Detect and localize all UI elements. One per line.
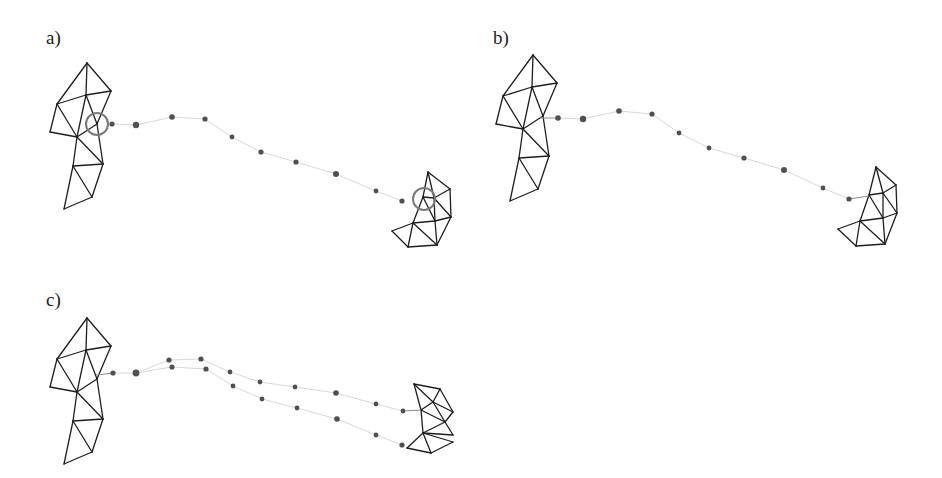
trajectory-point [133,122,139,128]
trajectory-point [781,167,787,173]
trajectory-point [399,198,404,203]
trajectory-point [374,433,379,438]
trajectory-point [133,370,140,377]
trajectory-point [649,111,654,116]
trajectory-point [295,406,300,411]
trajectory-point [228,370,233,375]
attachment-segment [403,410,421,411]
trajectory-point [333,390,339,396]
trajectory-path [113,359,403,445]
trajectory-point [260,397,265,402]
trajectory-path [112,117,402,201]
trajectory-point [293,385,298,390]
trajectory-point [258,380,263,385]
trajectory-point [169,364,174,369]
attachment-segment [849,196,869,199]
trajectory-point [580,116,586,122]
trajectory-point [846,196,851,201]
trajectory-point [555,115,561,121]
trajectory-point [203,366,208,371]
trajectory-point [198,356,203,361]
trajectory-point [399,442,404,447]
panel-c [50,318,453,464]
left-mesh [50,318,111,464]
trajectory-point [374,402,379,407]
trajectory-point [166,357,171,362]
trajectory-point [334,416,340,422]
trajectory-point [258,149,263,154]
trajectory-point [741,155,746,160]
panel-b [496,55,897,246]
trajectory-point [109,121,114,126]
left-mesh [50,63,111,209]
figure: a) b) c) [0,0,942,478]
trajectory-point [202,116,207,121]
trajectory-point [401,409,406,414]
diagram-canvas [0,0,942,478]
trajectory-point [677,131,682,136]
trajectory-point [110,370,115,375]
trajectory-point [231,384,236,389]
left-mesh [496,55,557,201]
trajectory-point [333,171,339,177]
panel-a [50,63,451,247]
trajectory-point [616,108,622,114]
trajectory-point [169,114,175,120]
trajectory-point [230,135,235,140]
trajectory-path [558,111,849,199]
trajectory-point [821,186,826,191]
right-mesh [407,384,453,453]
trajectory-point [707,146,712,151]
trajectory-point [293,159,298,164]
right-mesh [838,167,897,246]
trajectory-point [374,189,379,194]
